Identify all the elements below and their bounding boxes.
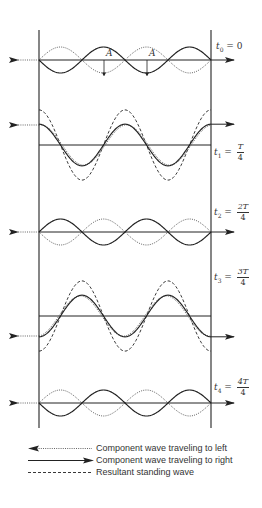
amplitude-label: A <box>106 48 113 58</box>
time-label-t1: t1 = T4 <box>214 143 244 162</box>
dashed-line-icon <box>28 467 94 478</box>
standing-wave-diagram: AAt0 = 0t1 = T4t2 = 2T4t3 = 3T4t4 = 4T4 … <box>0 0 262 508</box>
panel-t2 <box>18 219 234 245</box>
time-label-t4: t4 = 4T4 <box>214 378 249 397</box>
legend: Component wave traveling to left Compone… <box>28 443 258 479</box>
legend-item-right-wave: Component wave traveling to right <box>28 455 258 466</box>
time-panels <box>18 47 234 416</box>
time-label-t0: t0 = 0 <box>216 42 242 53</box>
panel-t0 <box>18 47 234 74</box>
solid-right-arrow-icon <box>28 455 94 466</box>
amplitude-label: A <box>149 48 156 58</box>
dotted-left-arrow-icon <box>28 443 94 454</box>
legend-item-resultant: Resultant standing wave <box>28 467 258 478</box>
panel-t4 <box>18 390 234 416</box>
legend-label: Component wave traveling to right <box>96 455 233 466</box>
legend-item-left-wave: Component wave traveling to left <box>28 443 258 454</box>
time-label-t2: t2 = 2T4 <box>214 203 249 222</box>
legend-label: Resultant standing wave <box>96 467 194 478</box>
legend-label: Component wave traveling to left <box>96 443 227 454</box>
pipe-walls <box>39 30 211 428</box>
panel-t3 <box>18 281 234 351</box>
time-label-t3: t3 = 3T4 <box>214 268 249 287</box>
panel-t1 <box>18 110 234 180</box>
